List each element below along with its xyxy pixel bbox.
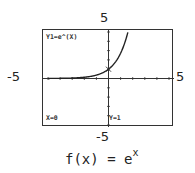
y-readout: Y=1 — [109, 114, 121, 122]
equation-label: Y1=e^(X) — [46, 33, 77, 41]
y-min-label: -5 — [96, 130, 109, 144]
function-caption: f(x) = ex — [65, 149, 138, 167]
x-max-label: 5 — [176, 70, 184, 84]
y-max-label: 5 — [100, 11, 108, 25]
x-min-label: -5 — [7, 70, 20, 84]
x-readout: X=0 — [46, 114, 58, 122]
caption-base: f(x) = e — [65, 151, 132, 167]
caption-exponent: x — [132, 147, 138, 158]
graph-plot — [43, 30, 174, 127]
calculator-screen: Y1=e^(X) X=0 Y=1 — [42, 29, 173, 126]
